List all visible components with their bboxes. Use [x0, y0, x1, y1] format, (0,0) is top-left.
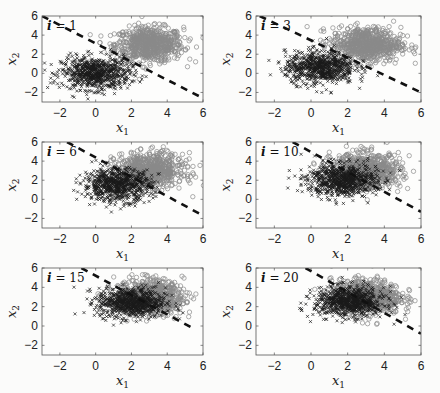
y-axis-label: x2	[218, 305, 235, 318]
x-axis-label: x1	[332, 120, 345, 137]
panel-label: i = 6	[47, 145, 77, 159]
y-tick-label: −2	[238, 211, 252, 225]
y-tick-label: 4	[31, 280, 38, 294]
y-tick-label: 0	[31, 319, 38, 333]
x-axis-label: x1	[332, 373, 345, 390]
y-tick-label: 0	[245, 192, 252, 206]
x-axis-label: x1	[116, 120, 129, 137]
x-tick-label: −2	[267, 106, 281, 120]
x-tick-label: 6	[418, 359, 425, 373]
y-tick-label: −2	[24, 211, 38, 225]
x-tick-label: 0	[308, 106, 315, 120]
y-tick-label: 2	[31, 47, 38, 61]
y-tick-label: −2	[238, 85, 252, 99]
x-tick-label: 4	[381, 106, 388, 120]
x-tick-label: 2	[128, 106, 135, 120]
y-axis-label: x2	[4, 305, 21, 318]
x-tick-label: 6	[200, 106, 207, 120]
x-tick-label: 0	[92, 106, 99, 120]
x-tick-label: 6	[200, 359, 207, 373]
x-tick-label: 4	[381, 359, 388, 373]
x-tick-label: 4	[164, 106, 171, 120]
y-tick-label: −2	[24, 338, 38, 352]
y-tick-label: 6	[245, 9, 252, 23]
scatter-panel-6: −20246−20246i = 20x1x2	[218, 261, 426, 390]
x-tick-label: −2	[53, 359, 67, 373]
panel-label: i = 15	[47, 271, 85, 285]
x-tick-label: 2	[128, 359, 135, 373]
x-axis-label: x1	[116, 373, 129, 390]
x-tick-label: −2	[267, 232, 281, 246]
x-tick-label: 6	[200, 232, 207, 246]
y-tick-label: 4	[31, 28, 38, 42]
x-tick-label: 4	[381, 232, 388, 246]
y-tick-label: 2	[31, 300, 38, 314]
panel-label: i = 3	[261, 19, 291, 33]
y-tick-label: 0	[245, 319, 252, 333]
scatter-panel-1: −20246−20246i = 1x1x2	[4, 9, 207, 137]
y-tick-label: 0	[31, 66, 38, 80]
scatter-panel-5: −20246−20246i = 15x1x2	[4, 258, 207, 391]
figure: −20246−20246i = 1x1x2−20246−20246i = 3x1…	[0, 0, 440, 393]
y-tick-label: 6	[245, 261, 252, 275]
panel-label: i = 1	[47, 19, 77, 33]
x-tick-label: 6	[418, 106, 425, 120]
y-tick-label: 4	[245, 28, 252, 42]
y-axis-label: x2	[218, 52, 235, 65]
y-tick-label: 4	[31, 154, 38, 168]
x-axis-label: x1	[116, 246, 129, 263]
y-tick-label: 6	[245, 135, 252, 149]
y-tick-label: 4	[245, 154, 252, 168]
panel-label: i = 20	[261, 271, 299, 285]
y-tick-label: 2	[245, 300, 252, 314]
y-tick-label: 6	[31, 9, 38, 23]
x-tick-label: 0	[92, 232, 99, 246]
x-tick-label: 2	[128, 232, 135, 246]
x-tick-label: 4	[164, 232, 171, 246]
x-tick-label: −2	[53, 106, 67, 120]
x-axis-label: x1	[332, 246, 345, 263]
y-tick-label: 4	[245, 280, 252, 294]
x-tick-label: 2	[344, 106, 351, 120]
y-tick-label: −2	[24, 85, 38, 99]
panel-label: i = 10	[261, 145, 299, 159]
x-tick-label: 2	[344, 232, 351, 246]
y-tick-label: 6	[31, 261, 38, 275]
y-tick-label: 0	[31, 192, 38, 206]
scatter-panel-4: −20246−20246i = 10x1x2	[218, 135, 431, 263]
x-tick-label: −2	[267, 359, 281, 373]
x-tick-label: 6	[418, 232, 425, 246]
x-tick-label: 2	[344, 359, 351, 373]
y-tick-label: 2	[31, 173, 38, 187]
x-tick-label: 0	[308, 232, 315, 246]
y-tick-label: 2	[245, 47, 252, 61]
y-axis-label: x2	[4, 178, 21, 191]
y-tick-label: −2	[238, 338, 252, 352]
y-axis-label: x2	[218, 178, 235, 191]
y-axis-label: x2	[4, 52, 21, 65]
x-tick-label: 0	[92, 359, 99, 373]
x-tick-label: 0	[308, 359, 315, 373]
y-tick-label: 0	[245, 66, 252, 80]
y-tick-label: 2	[245, 173, 252, 187]
scatter-panel-2: −20246−20246i = 3x1x2	[218, 9, 425, 137]
x-tick-label: 4	[164, 359, 171, 373]
x-tick-label: −2	[53, 232, 67, 246]
scatter-panel-3: −20246−20246i = 6x1x2	[4, 135, 224, 263]
y-tick-label: 6	[31, 135, 38, 149]
